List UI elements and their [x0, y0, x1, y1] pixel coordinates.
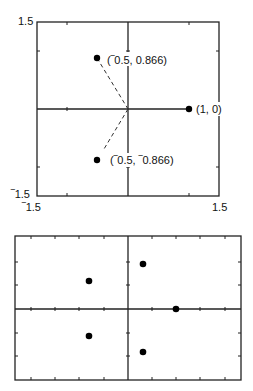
point-q3 — [86, 333, 93, 340]
bottom-plot — [15, 236, 241, 380]
point-q1 — [140, 261, 147, 268]
dashed-line-lower — [104, 109, 128, 149]
point-neg-half-pos-866 — [94, 55, 100, 61]
label-p3: (‾0.5, ‾0.866) — [110, 154, 174, 166]
label-p1: (‾0.5, 0.866) — [107, 54, 167, 66]
y-max-label: 1.5 — [18, 15, 33, 27]
y-min-label: ‾1.5 — [10, 188, 30, 200]
point-q4 — [140, 349, 147, 356]
point-1-0 — [186, 106, 192, 112]
point-neg-half-neg-866 — [94, 157, 100, 163]
point-on-x-axis — [173, 306, 180, 313]
point-q2 — [86, 278, 93, 285]
top-plot: (‾0.5, 0.866) (1, 0) (‾0.5, ‾0.866) 1.5 … — [10, 15, 230, 213]
x-max-label: 1.5 — [212, 201, 227, 213]
figure: (‾0.5, 0.866) (1, 0) (‾0.5, ‾0.866) 1.5 … — [0, 0, 253, 391]
x-min-label: ‾1.5 — [21, 201, 41, 213]
label-p2: (1, 0) — [196, 103, 222, 115]
